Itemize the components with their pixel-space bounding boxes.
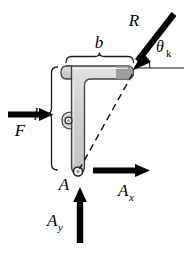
reaction-arrow-Ax: [93, 164, 150, 177]
label-Ay-subscript: y: [57, 221, 63, 233]
label-force-F: F: [14, 121, 26, 140]
label-point-A: A: [58, 175, 70, 194]
label-angle-theta-k: θ k: [156, 38, 172, 59]
dimension-brace-h: [48, 67, 58, 170]
pin-support-A: [73, 167, 82, 176]
label-reaction-Ax: A x: [117, 181, 134, 203]
label-theta: θ: [156, 38, 164, 55]
label-Ay-main: A: [46, 211, 58, 230]
bracket-left-nub: [61, 66, 72, 79]
dashed-diagonal-line: [80, 74, 133, 169]
reaction-arrow-Ay: [73, 187, 87, 243]
label-dimension-b: b: [95, 33, 104, 52]
mechanics-free-body-diagram: R θ k F b h A A x A y: [0, 0, 185, 256]
label-reaction-Ay: A y: [46, 211, 63, 233]
label-dimension-h: h: [34, 105, 43, 124]
force-arrow-F: [8, 108, 54, 121]
label-Ax-subscript: x: [128, 191, 134, 203]
dimension-brace-b: [66, 53, 134, 63]
label-force-R: R: [128, 11, 140, 30]
pin-middle: [62, 112, 72, 129]
label-Ax-main: A: [117, 181, 129, 200]
figure-root: R θ k F b h A A x A y: [0, 0, 185, 256]
label-theta-subscript: k: [166, 47, 172, 59]
